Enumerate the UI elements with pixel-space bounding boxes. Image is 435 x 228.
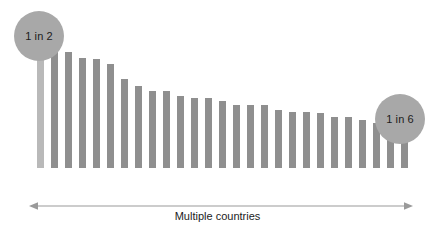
bar	[191, 98, 198, 168]
bar	[289, 112, 296, 168]
bar	[233, 105, 240, 168]
bar	[345, 117, 352, 168]
bar	[303, 112, 310, 168]
bar	[135, 86, 142, 168]
bar	[121, 79, 128, 168]
bar	[163, 91, 170, 168]
annotation-bubble-right-label: 1 in 6	[386, 113, 414, 125]
annotation-bubble-left-label: 1 in 2	[25, 30, 53, 42]
bar	[205, 98, 212, 168]
bar	[275, 110, 282, 168]
bar	[93, 59, 100, 168]
bar	[107, 64, 114, 168]
bar	[65, 52, 72, 168]
plot-area	[0, 0, 435, 200]
bar	[149, 91, 156, 168]
bar	[219, 101, 226, 168]
annotation-bubble-one-in-two: 1 in 2	[14, 11, 64, 61]
bar	[317, 113, 324, 168]
x-axis-label: Multiple countries	[0, 210, 435, 222]
bar	[247, 105, 254, 168]
annotation-bubble-one-in-six: 1 in 6	[375, 94, 425, 144]
bar	[51, 49, 58, 168]
bar	[177, 96, 184, 168]
bar-chart: 1 in 2 1 in 6 Multiple countries	[0, 0, 435, 228]
bar	[79, 58, 86, 168]
bar	[331, 117, 338, 168]
bar	[359, 120, 366, 168]
bar	[261, 105, 268, 168]
